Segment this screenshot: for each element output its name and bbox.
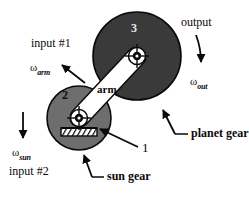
label-arm: arm [97, 84, 117, 95]
label-omega-arm: ωarm [30, 58, 50, 77]
label-gear-3: 3 [131, 22, 137, 34]
epicyclic-gear-diagram: input #1 ωarm ωsun input #2 output ωout … [0, 0, 249, 199]
label-sun-gear: sun gear [107, 170, 151, 182]
label-callout-1: 1 [142, 141, 149, 154]
omega-arm-subscript: arm [37, 68, 50, 77]
label-omega-sun: ωsun [12, 143, 31, 162]
label-input-2: input #2 [9, 165, 49, 177]
planet-gear-leader [163, 110, 188, 134]
omega-out-arrow [196, 35, 201, 62]
omega-arm-arrow [62, 65, 85, 83]
omega-sun-subscript: sun [19, 153, 30, 162]
label-planet-gear: planet gear [191, 127, 249, 139]
sun-gear-leader [84, 155, 104, 177]
callout-1-leader [100, 129, 138, 147]
omega-out-subscript: out [197, 82, 207, 91]
label-output: output [181, 16, 212, 28]
label-omega-out: ωout [190, 72, 207, 91]
label-gear-2: 2 [62, 89, 68, 101]
label-input-1: input #1 [31, 37, 71, 49]
